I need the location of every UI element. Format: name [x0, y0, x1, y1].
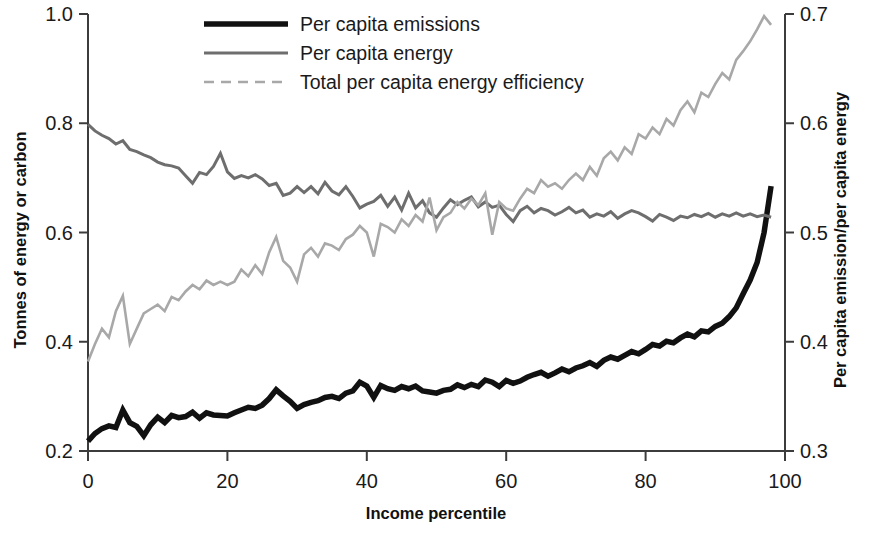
right-tick-label: 0.6: [800, 112, 828, 134]
bottom-tick-label: 60: [495, 470, 517, 492]
left-tick-label: 1.0: [45, 3, 73, 25]
right-axis-title: Per capita emission/per capita energy: [831, 91, 849, 388]
bottom-tick-label: 20: [216, 470, 238, 492]
bottom-tick-label: 0: [82, 470, 93, 492]
bottom-axis-title: Income percentile: [366, 504, 506, 522]
left-axis-title: Tonnes of energy or carbon: [11, 132, 29, 349]
line-chart: 0.20.40.60.81.0 0.30.40.50.60.7 02040608…: [0, 0, 871, 535]
right-tick-label: 0.7: [800, 3, 828, 25]
bottom-tick-label: 80: [634, 470, 656, 492]
left-tick-label: 0.4: [45, 331, 73, 353]
left-tick-label: 0.6: [45, 222, 73, 244]
chart-figure: 0.20.40.60.81.0 0.30.40.50.60.7 02040608…: [0, 0, 871, 535]
bottom-tick-label: 100: [768, 470, 801, 492]
legend-label: Per capita emissions: [300, 13, 480, 35]
left-tick-label: 0.2: [45, 440, 73, 462]
bottom-tick-label: 40: [356, 470, 378, 492]
legend-label: Total per capita energy efficiency: [300, 71, 584, 93]
right-tick-label: 0.4: [800, 331, 828, 353]
right-tick-label: 0.5: [800, 222, 828, 244]
left-tick-label: 0.8: [45, 112, 73, 134]
right-tick-label: 0.3: [800, 440, 828, 462]
legend-label: Per capita energy: [300, 42, 453, 64]
